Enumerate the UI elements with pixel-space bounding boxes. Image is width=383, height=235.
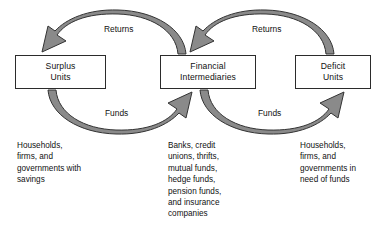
- entity-box-surplus-units[interactable]: Surplus Units: [15, 55, 106, 89]
- caption-line: and insurance: [168, 197, 268, 208]
- caption-line: companies: [168, 208, 268, 219]
- entity-box-deficit-units[interactable]: Deficit Units: [295, 55, 371, 89]
- caption-line: governments in: [300, 163, 383, 174]
- flow-label-funds-right: Funds: [258, 108, 281, 118]
- entity-box-deficit-units-line2: Units: [323, 72, 343, 83]
- flow-label-returns-right: Returns: [252, 24, 281, 34]
- flow-label-returns-left: Returns: [104, 24, 133, 34]
- caption-line: Banks, credit: [168, 140, 268, 151]
- caption-line: need of funds: [300, 174, 383, 185]
- entity-box-deficit-units-line1: Deficit: [321, 61, 346, 72]
- flow-label-funds-left: Funds: [105, 108, 128, 118]
- entity-box-financial-intermediaries-line1: Financial: [190, 61, 225, 72]
- entity-box-surplus-units-line2: Units: [50, 72, 70, 83]
- caption-line: unions, thrifts,: [168, 151, 268, 162]
- caption-line: Households,: [17, 140, 122, 151]
- entity-box-financial-intermediaries-line2: Intermediaries: [180, 72, 236, 83]
- caption-line: mutual funds,: [168, 163, 268, 174]
- caption-line: firms, and: [17, 151, 122, 162]
- caption-surplus-units: Households, firms, and governments with …: [17, 140, 122, 186]
- caption-line: Households,: [300, 140, 383, 151]
- caption-line: governments with: [17, 163, 122, 174]
- caption-line: pension funds,: [168, 186, 268, 197]
- caption-line: savings: [17, 174, 122, 185]
- caption-line: hedge funds,: [168, 174, 268, 185]
- entity-box-financial-intermediaries[interactable]: Financial Intermediaries: [160, 55, 256, 89]
- caption-financial-intermediaries: Banks, credit unions, thrifts, mutual fu…: [168, 140, 268, 220]
- caption-deficit-units: Households, firms, and governments in ne…: [300, 140, 383, 186]
- caption-line: firms, and: [300, 151, 383, 162]
- entity-box-surplus-units-line1: Surplus: [46, 61, 76, 72]
- diagram-canvas: Surplus Units Financial Intermediaries D…: [0, 0, 383, 235]
